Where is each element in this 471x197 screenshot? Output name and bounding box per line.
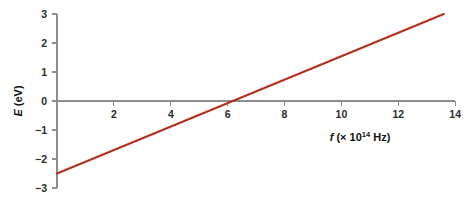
x-tick-label: 4 [168,108,174,120]
y-tick-label: 1 [41,66,47,78]
x-tick-label: 8 [282,108,288,120]
y-tick-label: −2 [35,153,47,165]
y-axis-title: E (eV) [12,85,24,117]
y-tick-label: −1 [35,124,47,136]
x-tick-labels: 2 4 6 8 10 12 14 [111,108,461,120]
x-tick-label: 6 [225,108,231,120]
y-tick-labels: 3 2 1 0 −1 −2 −3 [35,8,47,194]
x-axis-title-open: (× 10 [336,131,361,143]
x-tick-label: 12 [392,108,404,120]
x-axis-title: f (× 1014 Hz) [330,130,391,143]
y-tick-marks [52,14,57,188]
chart-plot: 3 2 1 0 −1 −2 −3 2 4 6 8 10 12 14 [0,0,471,197]
y-tick-label: 0 [41,95,47,107]
x-tick-marks [114,101,455,106]
x-tick-label: 10 [336,108,348,120]
y-tick-label: 3 [41,8,47,20]
x-tick-label: 14 [449,108,461,120]
x-axis-title-unit: Hz) [370,131,391,143]
x-tick-label: 2 [111,108,117,120]
y-tick-label: 2 [41,37,47,49]
y-axis-title-unit: (eV) [12,85,24,106]
y-tick-label: −3 [35,182,47,194]
data-series-line [57,14,444,174]
figure-container: 3 2 1 0 −1 −2 −3 2 4 6 8 10 12 14 [0,0,471,197]
svg-text:E (eV): E (eV) [12,85,24,117]
